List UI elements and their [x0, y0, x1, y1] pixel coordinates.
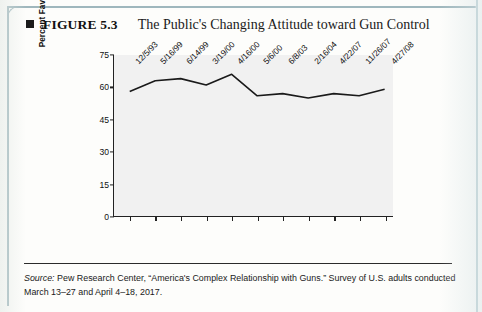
- y-tick-mark: [110, 216, 115, 217]
- page-edge-top: [8, 6, 476, 8]
- x-tick-mark: [130, 216, 131, 221]
- x-tick-mark: [334, 216, 335, 221]
- line-series: [114, 55, 393, 216]
- x-tick-mark: [232, 216, 233, 221]
- figure-title: The Public's Changing Attitude toward Gu…: [138, 17, 430, 33]
- source-divider: [24, 263, 452, 264]
- chart: Percent Favoring Control 01530456075 12/…: [86, 46, 406, 246]
- page-edge-left: [7, 6, 9, 306]
- source-text: Pew Research Center, “America's Complex …: [24, 273, 455, 297]
- plot-area: 01530456075 12/5/935/16/996/14/993/19/00…: [113, 55, 393, 217]
- figure-header: FIGURE 5.3 The Public's Changing Attitud…: [26, 17, 430, 33]
- source-prefix: Source:: [24, 273, 55, 283]
- page-edge-right: [476, 0, 478, 312]
- x-tick-mark: [181, 216, 182, 221]
- black-square-icon: [26, 20, 34, 28]
- scanned-page: FIGURE 5.3 The Public's Changing Attitud…: [0, 0, 482, 312]
- x-tick-mark: [283, 216, 284, 221]
- source-note: Source: Pew Research Center, “America's …: [24, 272, 460, 299]
- figure-number: FIGURE 5.3: [43, 17, 118, 33]
- x-tick-mark: [258, 216, 259, 221]
- y-axis-label: Percent Favoring Control: [38, 0, 47, 72]
- x-tick-mark: [309, 216, 310, 221]
- x-tick-mark: [155, 216, 156, 221]
- page-corner: [7, 6, 22, 21]
- x-tick-mark: [207, 216, 208, 221]
- x-tick-mark: [386, 216, 387, 221]
- x-tick-mark: [360, 216, 361, 221]
